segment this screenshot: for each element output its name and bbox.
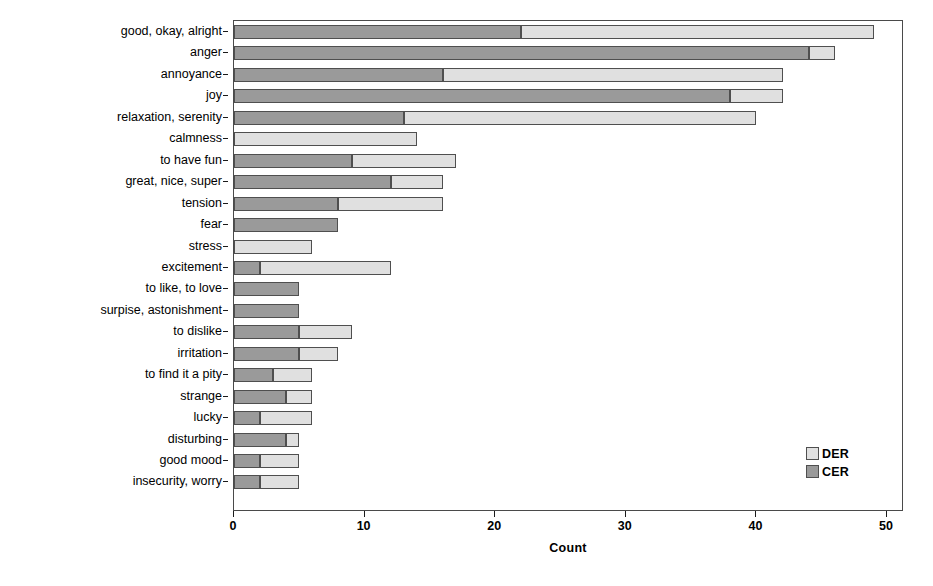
bar-segment-cer (234, 325, 299, 339)
bar-row (234, 433, 299, 447)
bar-segment-cer (234, 368, 273, 382)
bar-chart: Free Response Categories good, okay, alr… (0, 0, 933, 586)
bar-row (234, 282, 299, 296)
bar-row (234, 240, 312, 254)
y-axis-tick-label: good mood (159, 454, 222, 467)
legend-swatch-der (806, 447, 819, 460)
bar-segment-cer (234, 25, 521, 39)
y-axis-tick (223, 310, 228, 311)
y-axis-tick (223, 331, 228, 332)
y-axis-tick (223, 117, 228, 118)
x-axis-tick (886, 511, 887, 517)
y-axis-tick (223, 74, 228, 75)
bar-segment-der (260, 261, 391, 275)
y-axis-tick-label: surpise, astonishment (100, 303, 222, 316)
bar-segment-der (391, 175, 443, 189)
bar-segment-cer (234, 154, 352, 168)
y-axis-tick (223, 52, 228, 53)
bar-row (234, 89, 783, 103)
bar-segment-der (809, 46, 835, 60)
bar-segment-cer (234, 390, 286, 404)
y-axis-tick-label: to like, to love (146, 282, 222, 295)
y-axis-tick-label: to find it a pity (145, 368, 222, 381)
bar-row (234, 411, 312, 425)
y-axis-tick (223, 95, 228, 96)
y-axis-tick-label: tension (182, 196, 222, 209)
y-axis-tick-label: fear (200, 218, 222, 231)
bar-segment-cer (234, 304, 299, 318)
bar-segment-der (260, 475, 299, 489)
bar-segment-cer (234, 433, 286, 447)
plot-area (233, 20, 903, 511)
bar-segment-der (286, 433, 299, 447)
legend-swatch-cer (806, 465, 819, 478)
bar-segment-der (286, 390, 312, 404)
bar-segment-der (234, 240, 312, 254)
x-axis-tick-label: 40 (748, 519, 762, 533)
bar-segment-cer (234, 68, 443, 82)
y-axis-tick-label: good, okay, alright (121, 25, 222, 38)
bar-row (234, 111, 756, 125)
bar-segment-cer (234, 218, 338, 232)
y-axis-tick (223, 31, 228, 32)
bar-row (234, 25, 874, 39)
y-axis-tick (223, 181, 228, 182)
y-axis-tick (223, 203, 228, 204)
y-axis-tick-label: to dislike (173, 325, 222, 338)
bar-segment-cer (234, 454, 260, 468)
chart-legend: DERCER (806, 445, 878, 485)
y-axis-tick-label: strange (180, 389, 222, 402)
bar-segment-der (404, 111, 757, 125)
bar-row (234, 68, 783, 82)
bar-row (234, 347, 338, 361)
legend-label: DER (822, 447, 849, 461)
bar-segment-cer (234, 282, 299, 296)
x-axis-tick-label: 20 (487, 519, 501, 533)
y-axis-tick-label: disturbing (168, 432, 222, 445)
bar-segment-der (299, 347, 338, 361)
x-axis-tick (494, 511, 495, 517)
bar-row (234, 261, 391, 275)
y-axis-tick (223, 246, 228, 247)
bar-segment-cer (234, 475, 260, 489)
bars-layer (234, 21, 902, 510)
bar-row (234, 197, 443, 211)
y-axis-tick (223, 396, 228, 397)
bar-segment-der (299, 325, 351, 339)
bar-segment-der (352, 154, 456, 168)
x-axis-tick-label: 50 (879, 519, 893, 533)
y-axis-tick (223, 267, 228, 268)
y-axis-tick (223, 439, 228, 440)
y-axis-category-labels: good, okay, alrightangerannoyancejoyrela… (40, 20, 228, 511)
y-axis-tick-label: great, nice, super (125, 175, 222, 188)
x-axis-tick-label: 30 (618, 519, 632, 533)
bar-segment-cer (234, 197, 338, 211)
x-axis-tick-label: 10 (357, 519, 371, 533)
x-axis-tick-label: 0 (230, 519, 237, 533)
y-axis-tick (223, 417, 228, 418)
y-axis-tick-label: insecurity, worry (133, 475, 222, 488)
bar-segment-der (260, 454, 299, 468)
bar-segment-cer (234, 347, 299, 361)
bar-row (234, 46, 835, 60)
x-axis-tick (625, 511, 626, 517)
y-axis-tick (223, 481, 228, 482)
bar-segment-der (260, 411, 312, 425)
bar-segment-der (443, 68, 783, 82)
y-axis-tick-label: stress (189, 239, 222, 252)
y-axis-tick (223, 460, 228, 461)
y-axis-tick-label: annoyance (161, 67, 222, 80)
x-axis-tick (364, 511, 365, 517)
bar-row (234, 390, 312, 404)
legend-entry: CER (806, 463, 849, 480)
bar-row (234, 175, 443, 189)
bar-row (234, 475, 299, 489)
bar-segment-der (730, 89, 782, 103)
y-axis-tick-label: to have fun (160, 153, 222, 166)
bar-segment-cer (234, 89, 730, 103)
y-axis-tick-label: lucky (194, 411, 222, 424)
bar-segment-der (234, 132, 417, 146)
y-axis-tick-label: relaxation, serenity (117, 110, 222, 123)
bar-segment-cer (234, 46, 809, 60)
y-axis-tick (223, 374, 228, 375)
